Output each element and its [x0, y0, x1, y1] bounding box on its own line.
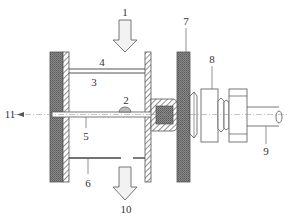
label-1: 1	[122, 6, 128, 18]
label-3: 3	[91, 76, 97, 88]
sensor-bump-2	[119, 107, 131, 112]
plate-6	[69, 158, 145, 174]
label-6: 6	[85, 177, 91, 189]
label-2: 2	[123, 94, 129, 106]
label-11: 11	[5, 108, 16, 120]
inlet-arrow-icon	[113, 20, 137, 52]
label-5: 5	[83, 130, 89, 142]
fitting	[151, 99, 177, 131]
outlet-arrow-icon	[113, 167, 137, 200]
plate-4-3	[69, 69, 145, 73]
label-10: 10	[121, 203, 133, 215]
label-4: 4	[99, 56, 105, 68]
wall-7	[177, 28, 190, 182]
label-9: 9	[263, 145, 269, 157]
rod-5	[14, 112, 160, 128]
mechanical-diagram: 1 2 3 4 5 6 7 8 9 10 11	[0, 0, 290, 218]
connector-8	[190, 66, 247, 142]
label-8: 8	[209, 53, 215, 65]
label-7: 7	[183, 15, 189, 27]
